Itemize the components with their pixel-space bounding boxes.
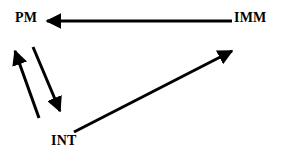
node-label-pm: PM	[15, 11, 37, 25]
node-label-imm: IMM	[234, 11, 266, 25]
diagram-canvas: PM IMM INT	[0, 0, 283, 158]
edge-int-to-imm	[74, 51, 232, 132]
edge-int-to-pm	[15, 51, 39, 118]
edge-pm-to-int	[33, 47, 60, 111]
node-label-int: INT	[51, 134, 77, 148]
